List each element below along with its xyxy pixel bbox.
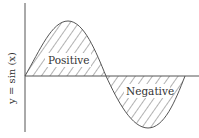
positive-label: Positive	[48, 54, 89, 66]
sine-diagram: Positive Negative y = sin (x)	[0, 0, 199, 138]
y-axis-label: y = sin (x)	[6, 52, 17, 105]
negative-region	[106, 76, 185, 128]
negative-label: Negative	[126, 85, 174, 97]
